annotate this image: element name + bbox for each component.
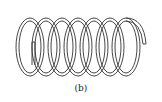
coil-turn [32,18,60,76]
coil-turn [80,18,108,76]
figure-caption: (b) [0,83,162,93]
coil-turn [112,18,140,76]
coil-turn [64,18,92,76]
coil-turn [48,18,76,76]
coil-turn [96,18,124,76]
coil-turn [16,18,44,76]
coil-turn [115,21,137,73]
